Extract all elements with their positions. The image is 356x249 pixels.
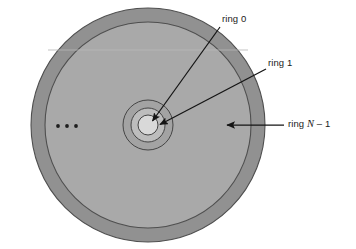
figure-canvas: ring 0 ring 1 ring N – 1: [0, 0, 356, 249]
ring-1-label: ring 1: [268, 57, 292, 68]
ring-0-label: ring 0: [222, 13, 246, 24]
ring-n-minus-1-suffix: – 1: [314, 118, 330, 129]
ring-n-minus-1-label: ring N – 1: [288, 118, 330, 129]
ring-n-minus-1-prefix: ring: [288, 118, 307, 129]
